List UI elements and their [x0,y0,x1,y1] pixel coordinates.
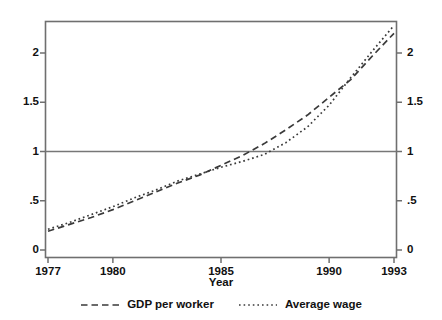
x-axis-ticks [48,258,394,264]
y-axis-right-tick-2: 2 [407,47,440,59]
legend-label-average-wage: Average wage [285,299,362,311]
legend-item-average-wage: Average wage [238,299,362,311]
chart-legend: GDP per worker Average wage [0,299,442,311]
y-axis-right-ticks [397,53,403,250]
chart-figure: 21.51.50 21.51.50 19771980198519901993 Y… [0,0,442,320]
y-axis-right-tick-1: 1 [407,146,440,158]
y-axis-left-tick-0: 0 [6,244,39,256]
y-axis-right-tick-0: 0 [407,244,440,256]
series-line-average-wage [48,25,394,229]
y-axis-left-tick-1: 1 [6,146,39,158]
series-line-gdp-per-worker [48,33,394,231]
y-axis-left-tick-2: 2 [6,47,39,59]
y-axis-right-tick-1p5: 1.5 [407,96,440,108]
y-axis-right-tick-p5: .5 [407,195,440,207]
data-series-group [48,25,394,231]
y-axis-left-tick-1p5: 1.5 [6,96,39,108]
y-axis-left-ticks [40,53,46,250]
plot-frame [46,22,397,258]
legend-key-dashed-line [80,300,120,310]
y-axis-left-tick-p5: .5 [6,195,39,207]
legend-item-gdp-per-worker: GDP per worker [80,299,214,311]
legend-key-dotted-line [238,300,278,310]
x-axis-title: Year [0,276,442,288]
legend-label-gdp-per-worker: GDP per worker [127,299,214,311]
